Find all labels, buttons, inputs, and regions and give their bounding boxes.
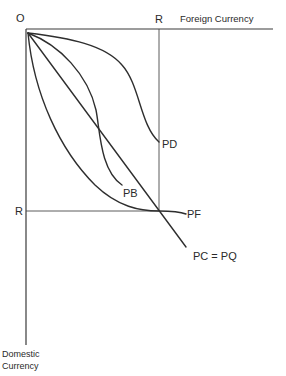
reserve-label-left: R <box>15 205 23 217</box>
reserve-label-top: R <box>155 13 163 25</box>
y-axis-label-line2: Currency <box>2 361 39 371</box>
curve-pd <box>28 33 159 142</box>
currency-portfolio-diagram: O R Foreign Currency R PD PB PF PC = PQ … <box>0 0 286 376</box>
curve-pf-label: PF <box>187 208 201 220</box>
origin-label: O <box>16 12 25 24</box>
y-axis-label-line1: Domestic <box>2 349 40 359</box>
curve-pc-pq-label: PC = PQ <box>193 250 237 262</box>
curve-pb-label: PB <box>123 187 138 199</box>
curve-pf <box>28 33 186 214</box>
curve-pd-label: PD <box>162 138 177 150</box>
x-axis-label: Foreign Currency <box>180 13 254 24</box>
